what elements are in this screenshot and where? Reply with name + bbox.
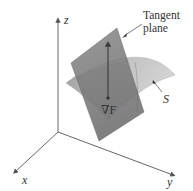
x-axis-label: x bbox=[22, 174, 27, 186]
y-axis bbox=[58, 132, 173, 175]
y-axis-label: y bbox=[167, 176, 172, 188]
surface-label: S bbox=[163, 93, 169, 105]
point-of-tangency bbox=[106, 96, 109, 99]
x-axis bbox=[15, 132, 58, 172]
tangent-plane-label-line2: plane bbox=[143, 22, 180, 35]
tangent-plane-label: Tangent plane bbox=[143, 9, 180, 35]
tangent-plane-figure: z x y Tangent plane S ∇F bbox=[0, 0, 193, 191]
tangent-plane-leader-head bbox=[122, 33, 127, 38]
gradient-label: ∇F bbox=[101, 104, 116, 116]
tangent-plane-label-line1: Tangent bbox=[143, 9, 180, 22]
z-axis-label: z bbox=[64, 14, 69, 26]
